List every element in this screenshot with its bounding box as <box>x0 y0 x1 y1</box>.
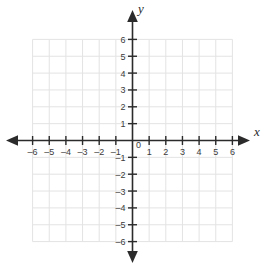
x-axis-right-arrowhead <box>238 135 250 146</box>
x-tick-label: –5 <box>44 147 54 157</box>
x-tick-label: –2 <box>94 147 104 157</box>
x-axis-label: x <box>253 124 260 139</box>
x-tick-label: 3 <box>180 147 185 157</box>
y-axis-up-arrowhead <box>127 10 138 22</box>
x-tick-label: –3 <box>78 147 88 157</box>
x-tick-label: –4 <box>61 147 71 157</box>
y-tick-label: –6 <box>115 237 125 247</box>
y-tick-label: 5 <box>120 52 125 62</box>
y-tick-label: –1 <box>115 153 125 163</box>
y-axis-down-arrowhead <box>127 251 138 263</box>
x-tick-label: 4 <box>197 147 202 157</box>
y-tick-label: –2 <box>115 170 125 180</box>
origin-label: 0 <box>136 140 141 150</box>
x-axis-left-arrowhead <box>6 135 18 146</box>
y-tick-label: 1 <box>120 119 125 129</box>
x-tick-label: 2 <box>163 147 168 157</box>
x-tick-label: –6 <box>28 147 38 157</box>
x-tick-label: 1 <box>147 147 152 157</box>
y-tick-label: 3 <box>120 85 125 95</box>
y-tick-label: –4 <box>115 203 125 213</box>
y-tick-label: 6 <box>120 35 125 45</box>
x-tick-label: 6 <box>230 147 235 157</box>
coordinate-plane-figure: –6–5–4–3–2–1123456654321–1–2–3–4–5–6 x y… <box>0 0 268 265</box>
y-tick-label: –3 <box>115 187 125 197</box>
y-tick-label: 4 <box>120 69 125 79</box>
y-tick-label: 2 <box>120 102 125 112</box>
coordinate-grid: –6–5–4–3–2–1123456654321–1–2–3–4–5–6 x y… <box>0 0 268 265</box>
y-axis-label: y <box>136 1 144 16</box>
y-tick-label: –5 <box>115 220 125 230</box>
x-tick-label: 5 <box>213 147 218 157</box>
